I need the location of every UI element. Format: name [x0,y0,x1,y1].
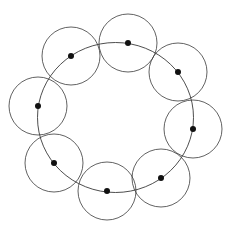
central-ring-curve [38,43,194,193]
node-dot-6 [51,160,57,166]
node-dot-8 [68,53,74,59]
node-dot-2 [175,69,181,75]
node-dot-4 [158,175,164,181]
node-dot-3 [190,126,196,132]
node-dot-1 [125,40,131,46]
node-group [9,14,222,220]
node-dot-7 [35,103,41,109]
ring-diagram [0,0,231,232]
node-dot-5 [104,188,110,194]
